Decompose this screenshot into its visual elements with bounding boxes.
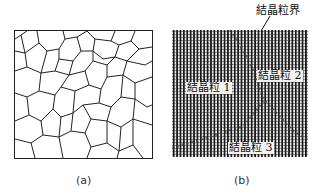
caption-b: (b) [234, 174, 250, 187]
grain-1-label: 結晶粒 1 [186, 82, 232, 94]
grain-3-label: 結晶粒 3 [228, 142, 274, 154]
grain-2-label: 結晶粒 2 [257, 70, 303, 82]
atomic-lattice-panel: 結晶粒 1 結晶粒 2 結晶粒 3 [172, 30, 308, 157]
